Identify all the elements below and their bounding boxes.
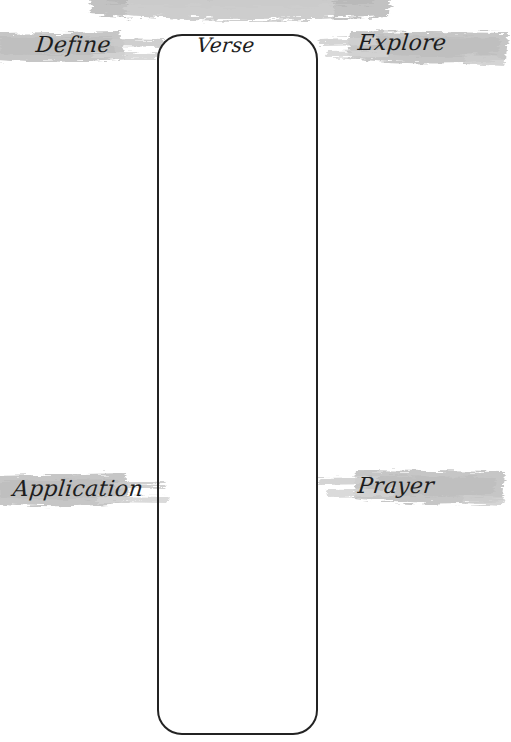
section-label-define: Define [35,32,112,57]
explore-writing-area[interactable] [320,70,505,455]
section-label-prayer: Prayer [357,473,436,498]
define-writing-area[interactable] [0,70,155,455]
application-writing-area[interactable] [0,515,155,735]
section-label-application: Application [12,476,145,501]
verse-box-label: Verse [196,33,256,57]
top-banner-brush-stroke [85,0,395,24]
prayer-writing-area[interactable] [320,515,505,735]
verse-writing-area[interactable] [166,70,309,725]
section-label-explore: Explore [357,30,448,55]
